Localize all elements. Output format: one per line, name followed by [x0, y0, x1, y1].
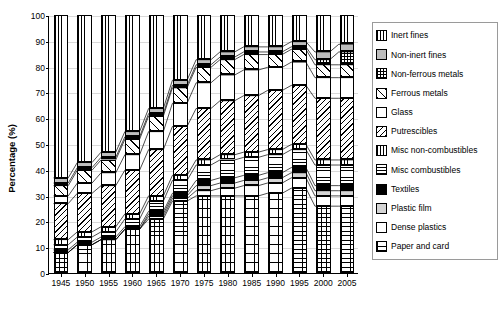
segment-paper-and-card [244, 196, 259, 273]
segment-inert-fines [77, 15, 92, 162]
segment-paper-and-card [268, 193, 283, 273]
legend-swatch-icon [376, 164, 387, 175]
segment-non-ferrous-metals [316, 59, 331, 64]
segment-misc-non-combustibles [268, 149, 283, 154]
segment-non-inert-fines [173, 80, 188, 85]
segment-putrescibles [340, 98, 355, 160]
segment-textiles [244, 175, 259, 180]
segment-non-inert-fines [77, 162, 92, 167]
legend-item-putrescibles[interactable]: Putrescibles [376, 122, 495, 141]
legend-swatch-icon [376, 88, 387, 99]
legend-item-paper-and-card[interactable]: Paper and card [376, 237, 495, 256]
y-axis-tick-label: 70 [15, 88, 45, 98]
segment-ferrous-metals [316, 64, 331, 77]
segment-putrescibles [220, 100, 235, 154]
segment-paper-and-card [197, 196, 212, 273]
segment-non-ferrous-metals [292, 46, 307, 49]
segment-putrescibles [292, 85, 307, 144]
segment-putrescibles [77, 193, 92, 232]
segment-misc-non-combustibles [54, 239, 69, 244]
segment-ferrous-metals [125, 139, 140, 154]
legend-item-label: Non-inert fines [391, 51, 446, 60]
x-axis-tick-mark [299, 273, 300, 277]
legend-item-label: Paper and card [391, 242, 449, 251]
segment-inert-fines [54, 15, 69, 178]
segment-putrescibles [316, 98, 331, 160]
segment-plastic-film [268, 178, 283, 183]
segment-inert-fines [316, 15, 331, 51]
segment-non-inert-fines [292, 41, 307, 46]
segment-non-ferrous-metals [77, 167, 92, 170]
segment-dense-plastics [173, 198, 188, 201]
x-axis-tick-mark [204, 273, 205, 277]
column-1995: 1995 [292, 15, 307, 273]
legend-item-non-inert-fines[interactable]: Non-inert fines [376, 45, 495, 64]
segment-paper-and-card [77, 245, 92, 273]
segment-dense-plastics [244, 185, 259, 195]
legend-item-inert-fines[interactable]: Inert fines [376, 26, 495, 45]
segment-dense-plastics [149, 216, 164, 219]
segment-plastic-film [316, 190, 331, 195]
legend-swatch-icon [376, 49, 387, 60]
chart-root: Percentage (%) 0102030405060708090100 19… [0, 0, 502, 321]
segment-ferrous-metals [244, 54, 259, 69]
legend-item-dense-plastics[interactable]: Dense plastics [376, 218, 495, 237]
legend-item-label: Glass [391, 108, 413, 117]
segment-inert-fines [149, 15, 164, 108]
legend-item-non-ferrous-metals[interactable]: Non-ferrous metals [376, 64, 495, 83]
legend-item-misc-non-combustibles[interactable]: Misc non-combustibles [376, 141, 495, 160]
legend-item-label: Non-ferrous metals [391, 70, 463, 79]
legend-item-label: Textiles [391, 185, 419, 194]
legend-item-textiles[interactable]: Textiles [376, 180, 495, 199]
segment-dense-plastics [292, 178, 307, 188]
segment-glass [101, 172, 116, 185]
segment-non-ferrous-metals [268, 51, 283, 54]
segment-textiles [54, 250, 69, 253]
legend-item-ferrous-metals[interactable]: Ferrous metals [376, 84, 495, 103]
segment-non-inert-fines [340, 43, 355, 51]
segment-inert-fines [340, 15, 355, 43]
segment-non-inert-fines [244, 46, 259, 51]
segment-inert-fines [125, 15, 140, 131]
column-1975: 1975 [197, 15, 212, 273]
y-axis-tick-label: 30 [15, 192, 45, 202]
segment-plastic-film [197, 185, 212, 190]
x-axis-tick-mark [156, 273, 157, 277]
segment-misc-non-combustibles [101, 227, 116, 232]
segment-misc-combustibles [101, 232, 116, 237]
segment-paper-and-card [292, 188, 307, 273]
segment-glass [244, 69, 259, 95]
segment-glass [77, 183, 92, 193]
legend-item-misc-combustibles[interactable]: Misc combustibles [376, 160, 495, 179]
x-axis-tick-mark [132, 273, 133, 277]
segment-misc-combustibles [244, 157, 259, 175]
segment-glass [149, 131, 164, 149]
segment-dense-plastics [268, 183, 283, 193]
segment-non-ferrous-metals [125, 136, 140, 139]
segment-non-inert-fines [101, 152, 116, 157]
segment-ferrous-metals [101, 160, 116, 173]
segment-paper-and-card [125, 229, 140, 273]
segment-misc-non-combustibles [244, 152, 259, 157]
segment-textiles [340, 185, 355, 190]
segment-textiles [149, 211, 164, 214]
segment-textiles [268, 172, 283, 177]
x-axis-tick-mark [276, 273, 277, 277]
segment-inert-fines [244, 15, 259, 46]
segment-textiles [77, 242, 92, 245]
segment-glass [292, 61, 307, 84]
segment-glass [54, 196, 69, 204]
segment-putrescibles [173, 126, 188, 175]
segment-misc-non-combustibles [149, 196, 164, 201]
segment-misc-non-combustibles [125, 214, 140, 219]
x-axis-tick-mark [323, 273, 324, 277]
legend-swatch-icon [376, 145, 387, 156]
legend-swatch-icon [376, 184, 387, 195]
segment-dense-plastics [220, 188, 235, 196]
legend-item-glass[interactable]: Glass [376, 103, 495, 122]
legend: Inert finesNon-inert finesNon-ferrous me… [372, 22, 498, 260]
legend-item-plastic-film[interactable]: Plastic film [376, 199, 495, 218]
x-axis-tick-mark [252, 273, 253, 277]
legend-item-label: Inert fines [391, 31, 428, 40]
segment-non-inert-fines [197, 59, 212, 64]
